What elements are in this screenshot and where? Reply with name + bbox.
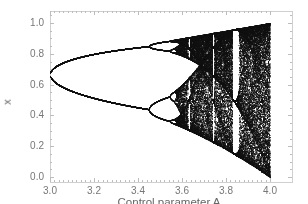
y-tick-label: 0.6 [18,80,44,90]
x-tick-label: 3.0 [43,186,57,196]
x-tick-label: 3.8 [219,186,233,196]
x-tick-label: 4.0 [263,186,277,196]
y-tick-label: 1.0 [18,18,44,28]
y-tick-label: 0.4 [18,110,44,120]
x-tick-label: 3.2 [87,186,101,196]
y-tick-label: 0.2 [18,141,44,151]
x-axis-label: Control parameter A [0,196,308,204]
y-axis-label: x [1,99,13,105]
bifurcation-plot [0,0,308,204]
x-tick-label: 3.6 [175,186,189,196]
y-tick-label: 0.0 [18,172,44,182]
x-tick-label: 3.4 [131,186,145,196]
y-tick-label: 0.8 [18,49,44,59]
